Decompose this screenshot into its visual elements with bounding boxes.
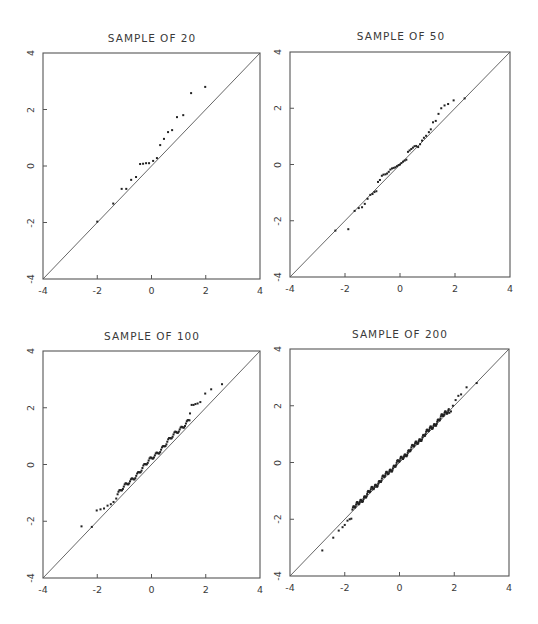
data-point [344, 524, 346, 526]
data-point [392, 467, 394, 469]
data-point [355, 506, 357, 508]
x-tick-label: 0 [396, 582, 402, 593]
data-point [457, 395, 459, 397]
data-point [439, 418, 441, 420]
data-point [381, 477, 383, 479]
data-point [366, 495, 368, 497]
data-point [346, 520, 348, 522]
data-point [447, 411, 449, 413]
data-point [377, 483, 379, 485]
data-point [450, 410, 452, 412]
x-tick-label: -2 [340, 582, 349, 593]
data-point [355, 504, 357, 506]
data-point [332, 537, 334, 539]
y-tick-label: 0 [272, 459, 283, 465]
data-point [417, 442, 419, 444]
data-point [406, 454, 408, 456]
data-point [476, 382, 478, 384]
data-point [402, 457, 404, 459]
data-point [399, 459, 401, 461]
data-point [443, 414, 445, 416]
data-point [410, 449, 412, 451]
data-point [452, 405, 454, 407]
data-point [391, 469, 393, 471]
data-point [407, 452, 409, 454]
data-point [428, 429, 430, 431]
data-point [421, 436, 423, 438]
data-point [380, 480, 382, 482]
x-tick-label: -4 [285, 582, 294, 593]
data-point [414, 444, 416, 446]
x-tick-label: 2 [451, 582, 457, 593]
data-point [425, 433, 427, 435]
data-point [421, 438, 423, 440]
data-point [342, 526, 344, 528]
x-tick-label: 4 [506, 582, 512, 593]
data-point [321, 549, 323, 551]
y-tick-label: -2 [272, 515, 283, 524]
data-point [448, 408, 450, 410]
data-point [396, 462, 398, 464]
data-point [388, 472, 390, 474]
data-point [436, 421, 438, 423]
data-point [362, 500, 364, 502]
data-point [436, 423, 438, 425]
data-point [432, 427, 434, 429]
data-point [366, 493, 368, 495]
data-points [321, 382, 477, 551]
data-point [369, 490, 371, 492]
data-point [351, 509, 353, 511]
y-tick-label: -4 [272, 571, 283, 580]
data-point [384, 475, 386, 477]
data-point [338, 530, 340, 532]
qq-plot-area [0, 0, 538, 624]
y-tick-label: 2 [272, 403, 283, 409]
data-point [362, 498, 364, 500]
data-point [377, 485, 379, 487]
data-point [350, 518, 352, 520]
data-point [395, 464, 397, 466]
data-point [460, 393, 462, 395]
data-point [466, 386, 468, 388]
data-point [455, 399, 457, 401]
y-tick-label: 4 [272, 346, 283, 352]
qq-panel-sample-200: SAMPLE OF 200 -4-2024-4-2024 [0, 0, 538, 624]
data-point [410, 446, 412, 448]
